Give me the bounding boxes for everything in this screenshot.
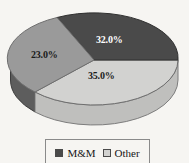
pie-chart-plot-area: 32.0% 23.0% 35.0% — [0, 0, 189, 128]
pie-chart-figure: 32.0% 23.0% 35.0% M&M Other — [0, 0, 189, 163]
pie-slice-label-23: 23.0% — [31, 50, 58, 60]
legend-label-other: Other — [115, 148, 140, 159]
pie-slice-label-35: 35.0% — [88, 71, 115, 81]
legend-swatch-icon-other — [103, 149, 111, 157]
pie-slice-label-32: 32.0% — [96, 35, 123, 45]
pie-chart-graphic — [0, 0, 189, 128]
legend-swatch-icon-mm — [55, 149, 63, 157]
legend-entry-mm: M&M — [55, 148, 95, 159]
legend-label-mm: M&M — [67, 148, 95, 159]
chart-legend: M&M Other — [45, 139, 150, 163]
legend-entry-other: Other — [103, 148, 140, 159]
